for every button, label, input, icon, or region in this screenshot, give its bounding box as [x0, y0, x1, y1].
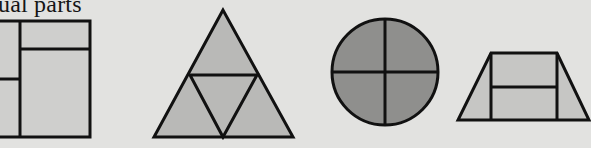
figure-circle: [332, 19, 438, 125]
figure-trapezoid: [458, 53, 589, 120]
figure-triangle: [154, 10, 293, 137]
figure-rectangle: [0, 21, 90, 137]
figures-canvas: [0, 0, 591, 148]
